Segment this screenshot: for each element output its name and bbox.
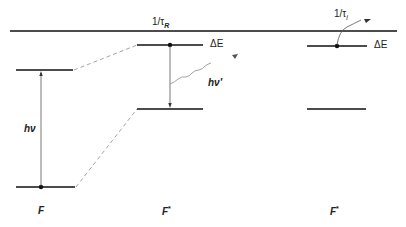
dashed-connector-upper (74, 45, 137, 70)
rate-label-i: 1/τi (334, 8, 348, 21)
delta-e-middle: ΔE (210, 38, 223, 49)
rate-r-text: 1/τ (152, 16, 164, 27)
photon-wavy-line (170, 63, 211, 84)
column-fstar-star: * (168, 205, 171, 212)
ionization-arrowhead (364, 19, 371, 23)
energy-level-diagram (0, 0, 406, 227)
column-label-fstar-middle: F* (162, 205, 171, 217)
rate-r-sub: R (164, 22, 169, 29)
rate-i-sub: i (346, 14, 348, 21)
column-label-fstar-right: F* (330, 205, 339, 217)
ionization-curve (337, 20, 361, 45)
rate-i-text: 1/τ (334, 8, 346, 19)
absorption-arrowhead (39, 71, 42, 76)
column-f-text: F (38, 205, 44, 216)
emission-arrowhead (168, 103, 171, 108)
delta-e-right: ΔE (374, 39, 387, 50)
emission-label: hν′ (208, 77, 222, 88)
photon-arrowhead (232, 54, 238, 59)
rate-label-r: 1/τR (152, 16, 169, 29)
absorption-label: hν (24, 123, 36, 134)
column-label-f: F (38, 205, 44, 216)
dashed-connector-lower (76, 109, 137, 187)
column-fstar2-star: * (336, 205, 339, 212)
